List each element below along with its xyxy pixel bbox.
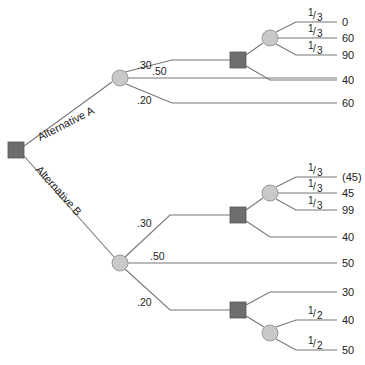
a-sub-chance-node: [262, 30, 278, 46]
a-value-40: 40: [342, 74, 354, 86]
b-prob-20: .20: [137, 296, 152, 308]
svg-text:/: /: [313, 165, 316, 176]
a-frac-1: 1 / 3: [308, 7, 323, 23]
b-frac-3: 1 / 3: [308, 195, 323, 211]
svg-text:3: 3: [317, 28, 323, 39]
root-decision-node: [8, 142, 24, 158]
svg-text:3: 3: [317, 200, 323, 211]
svg-text:/: /: [313, 10, 316, 21]
b-lower-decision-node: [230, 302, 246, 318]
b-outcome-neg45: [276, 177, 337, 187]
svg-text:/: /: [313, 26, 316, 37]
svg-text:3: 3: [317, 45, 323, 56]
a-prob-50: .50: [152, 65, 167, 77]
a-value-90: 90: [342, 49, 354, 61]
a-frac-3: 1 / 3: [308, 40, 323, 56]
a-sub-option-chance: [246, 43, 263, 55]
a-prob-30: .30: [137, 59, 152, 71]
svg-text:3: 3: [317, 167, 323, 178]
b-lower-chance-node: [262, 325, 278, 341]
b-frac-2: 1 / 3: [308, 178, 323, 194]
svg-text:/: /: [313, 198, 316, 209]
a-value-60-low: 60: [342, 97, 354, 109]
b-upper-option-chance: [246, 198, 263, 210]
b-frac-1: 1 / 3: [308, 162, 323, 178]
b-upper-chance-node: [262, 185, 278, 201]
svg-text:/: /: [313, 308, 316, 319]
b-value-neg45: (45): [342, 171, 362, 183]
b-outcome-50: [276, 339, 337, 350]
svg-text:/: /: [313, 181, 316, 192]
b-frac-half-2: 1 / 2: [308, 335, 323, 351]
b-upper-decision-node: [230, 207, 246, 223]
a-chance-node: [112, 70, 128, 86]
a-value-0: 0: [342, 16, 348, 28]
a-prob-20: .20: [137, 94, 152, 106]
svg-text:3: 3: [317, 12, 323, 23]
b-value-45: 45: [342, 187, 354, 199]
svg-text:/: /: [313, 338, 316, 349]
a-branch-20: [126, 84, 337, 103]
alternative-b-label: Alternative B: [34, 163, 85, 217]
b-value-40: 40: [342, 231, 354, 243]
alternative-a-label: Alternative A: [35, 104, 96, 143]
decision-tree-diagram: Alternative A Alternative B .30 .50 .20 …: [0, 0, 365, 365]
b-frac-half-1: 1 / 2: [308, 305, 323, 321]
b-prob-30: .30: [137, 217, 152, 229]
svg-text:2: 2: [317, 310, 323, 321]
b-value-50: 50: [342, 257, 354, 269]
b-outcome-99: [276, 199, 337, 210]
svg-text:2: 2: [317, 340, 323, 351]
b-value-40-low: 40: [342, 314, 354, 326]
b-chance-node: [112, 255, 128, 271]
b-lower-option-30: [246, 292, 337, 305]
b-prob-50: .50: [150, 250, 165, 262]
a-frac-2: 1 / 3: [308, 23, 323, 39]
b-upper-option-40: [246, 221, 337, 237]
a-outcome-0: [276, 22, 337, 32]
b-value-30: 30: [342, 286, 354, 298]
b-value-99: 99: [342, 204, 354, 216]
b-lower-option-chance: [246, 316, 264, 327]
a-value-60: 60: [342, 32, 354, 44]
a-outcome-90: [276, 44, 337, 55]
svg-text:/: /: [313, 43, 316, 54]
svg-text:3: 3: [317, 183, 323, 194]
b-outcome-40: [276, 320, 337, 327]
a-sub-decision-node: [230, 52, 246, 68]
b-value-50-low: 50: [342, 344, 354, 356]
